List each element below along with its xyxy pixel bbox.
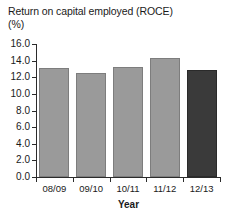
chart-title: Return on capital employed (ROCE) [8, 5, 220, 18]
y-tick-label: 8.0 [16, 104, 30, 117]
plot-area: 0.02.04.06.08.010.012.014.016.0 [36, 44, 220, 177]
bar [113, 67, 143, 177]
x-tick-label: 10/11 [116, 182, 139, 195]
chart-unit-label: (%) [8, 18, 220, 31]
y-tick-label: 4.0 [16, 137, 30, 150]
x-axis-labels: 08/0909/1010/1111/1212/13 [36, 182, 221, 196]
bar [187, 70, 217, 177]
y-tick-label: 16.0 [11, 37, 30, 50]
bar-fill [39, 68, 69, 177]
bar [150, 58, 180, 177]
x-axis-line [36, 177, 221, 178]
bar [39, 68, 69, 177]
y-tick-mark [32, 127, 36, 128]
y-tick-mark [32, 160, 36, 161]
y-tick-mark [32, 44, 36, 45]
y-tick-mark [32, 144, 36, 145]
bar-fill [113, 67, 143, 177]
y-tick-label: 0.0 [16, 170, 30, 183]
y-tick-mark [32, 77, 36, 78]
x-tick-label: 11/12 [153, 182, 176, 195]
y-tick-label: 12.0 [11, 70, 30, 83]
y-tick-mark [32, 61, 36, 62]
y-tick-label: 14.0 [11, 54, 30, 67]
y-tick-label: 10.0 [11, 87, 30, 100]
x-tick-label: 09/10 [79, 182, 103, 195]
y-tick-label: 6.0 [16, 120, 30, 133]
bar-fill [150, 58, 180, 177]
chart-title-block: Return on capital employed (ROCE) (%) [8, 5, 220, 31]
roce-bar-chart: Return on capital employed (ROCE) (%) 0.… [0, 0, 226, 220]
y-tick-label: 2.0 [16, 153, 30, 166]
bar [76, 73, 106, 177]
y-tick-mark [32, 111, 36, 112]
x-axis-title: Year [36, 198, 221, 211]
x-tick-label: 12/13 [190, 182, 214, 195]
y-tick-mark [32, 94, 36, 95]
bar-fill [76, 73, 106, 177]
bar-fill [187, 70, 217, 177]
x-tick-label: 08/09 [43, 182, 67, 195]
